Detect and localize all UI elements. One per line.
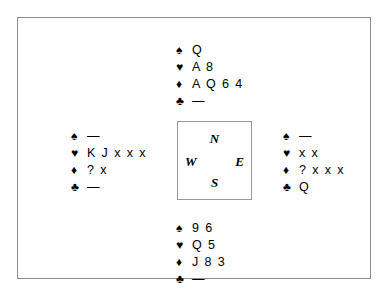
compass-label-west: W	[185, 155, 197, 168]
club-icon: ♣	[176, 271, 192, 288]
heart-icon: ♥	[176, 59, 192, 76]
south-spade-row: ♠ 9 6	[176, 220, 226, 237]
south-spade-cards: 9 6	[192, 220, 214, 237]
north-heart-row: ♥ A 8	[176, 59, 244, 76]
spade-icon: ♠	[283, 128, 299, 145]
heart-icon: ♥	[71, 145, 87, 162]
west-spade-row: ♠ —	[71, 128, 147, 145]
west-club-cards: —	[87, 179, 100, 196]
west-club-row: ♣ —	[71, 179, 147, 196]
diagram-outer-frame: ♠ Q ♥ A 8 ♦ A Q 6 4 ♣ — ♠ — ♥	[17, 17, 371, 279]
east-diamond-row: ♦ ? x x x	[283, 162, 345, 179]
east-spade-row: ♠ —	[283, 128, 345, 145]
club-icon: ♣	[283, 179, 299, 196]
hand-south: ♠ 9 6 ♥ Q 5 ♦ J 8 3 ♣ —	[176, 220, 226, 288]
north-diamond-row: ♦ A Q 6 4	[176, 76, 244, 93]
west-heart-cards: K J x x x	[87, 145, 147, 162]
north-heart-cards: A 8	[192, 59, 214, 76]
hand-north: ♠ Q ♥ A 8 ♦ A Q 6 4 ♣ —	[176, 42, 244, 110]
diamond-icon: ♦	[176, 76, 192, 93]
south-heart-cards: Q 5	[192, 237, 216, 254]
heart-icon: ♥	[176, 237, 192, 254]
diamond-icon: ♦	[71, 162, 87, 179]
west-spade-cards: —	[87, 128, 100, 145]
east-diamond-cards: ? x x x	[299, 162, 345, 179]
south-diamond-cards: J 8 3	[192, 254, 226, 271]
west-heart-row: ♥ K J x x x	[71, 145, 147, 162]
west-diamond-row: ♦ ? x	[71, 162, 147, 179]
north-diamond-cards: A Q 6 4	[192, 76, 244, 93]
hand-west: ♠ — ♥ K J x x x ♦ ? x ♣ —	[71, 128, 147, 196]
spade-icon: ♠	[176, 220, 192, 237]
compass-label-east: E	[235, 155, 244, 168]
heart-icon: ♥	[283, 145, 299, 162]
north-club-cards: —	[192, 93, 205, 110]
club-icon: ♣	[176, 93, 192, 110]
east-spade-cards: —	[299, 128, 312, 145]
north-spade-row: ♠ Q	[176, 42, 244, 59]
north-spade-cards: Q	[192, 42, 203, 59]
diamond-icon: ♦	[176, 254, 192, 271]
diamond-icon: ♦	[283, 162, 299, 179]
south-diamond-row: ♦ J 8 3	[176, 254, 226, 271]
south-club-cards: —	[192, 271, 205, 288]
hand-east: ♠ — ♥ x x ♦ ? x x x ♣ Q	[283, 128, 345, 196]
compass-label-north: N	[178, 132, 251, 145]
bridge-deal-diagram: ♠ Q ♥ A 8 ♦ A Q 6 4 ♣ — ♠ — ♥	[0, 0, 389, 296]
east-club-cards: Q	[299, 179, 310, 196]
east-heart-row: ♥ x x	[283, 145, 345, 162]
east-heart-cards: x x	[299, 145, 319, 162]
compass-label-south: S	[178, 176, 251, 189]
spade-icon: ♠	[71, 128, 87, 145]
spade-icon: ♠	[176, 42, 192, 59]
club-icon: ♣	[71, 179, 87, 196]
north-club-row: ♣ —	[176, 93, 244, 110]
south-club-row: ♣ —	[176, 271, 226, 288]
compass-box: N W E S	[177, 121, 252, 200]
west-diamond-cards: ? x	[87, 162, 108, 179]
east-club-row: ♣ Q	[283, 179, 345, 196]
south-heart-row: ♥ Q 5	[176, 237, 226, 254]
